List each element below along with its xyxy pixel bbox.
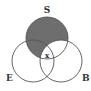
- label-e: E: [6, 73, 13, 83]
- label-s: S: [44, 5, 51, 15]
- venn-diagram: S E B x: [0, 0, 91, 91]
- label-b: B: [82, 73, 90, 83]
